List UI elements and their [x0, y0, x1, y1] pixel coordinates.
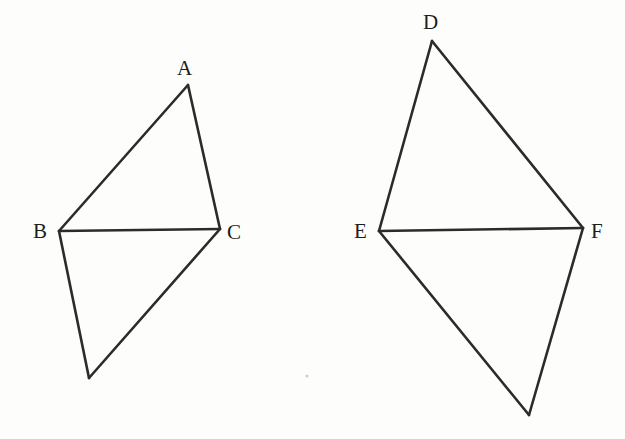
edge-a-b — [59, 85, 188, 231]
edge-bottom-c — [89, 229, 220, 378]
edge-e-bottom — [379, 231, 529, 415]
vertex-label-f: F — [591, 221, 603, 242]
vertex-label-a: A — [177, 58, 192, 79]
edge-b-c — [59, 229, 220, 231]
scan-artifacts-group — [305, 374, 308, 377]
edge-d-e — [379, 41, 432, 231]
vertex-label-c: C — [227, 222, 241, 243]
geometry-figure-canvas: A B C D E F — [0, 0, 625, 439]
edge-bottom-f — [529, 228, 583, 415]
vertex-label-d: D — [423, 12, 438, 33]
edge-a-c — [188, 85, 220, 229]
scan-speck-icon — [305, 374, 308, 377]
vertex-label-e: E — [354, 221, 367, 242]
vertex-label-b: B — [33, 221, 47, 242]
edge-b-bottom — [59, 231, 89, 378]
edge-d-f — [432, 41, 583, 228]
edge-e-f — [379, 228, 583, 231]
geometry-diagram-svg — [0, 0, 625, 439]
left-figure-group — [59, 85, 220, 378]
right-figure-group — [379, 41, 583, 415]
